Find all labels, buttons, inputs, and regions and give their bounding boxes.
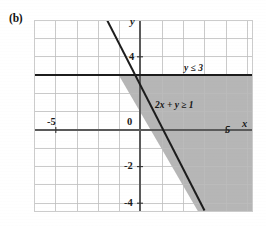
origin-label-0: 0	[127, 116, 132, 127]
y-tick-label-4: 4	[129, 51, 134, 62]
y-tick-label-neg2: -2	[124, 160, 133, 171]
figure-container: (b)	[0, 0, 266, 226]
inequality-label-2x-plus-y-ge-1: 2x + y ≥ 1	[155, 100, 194, 110]
plot-svg	[34, 20, 253, 212]
inequality-label-y-le-3: y ≤ 3	[184, 63, 203, 73]
x-axis-name-label: x	[242, 118, 247, 129]
y-tick-label-neg4: -4	[124, 197, 133, 208]
x-tick-label-5: 5	[225, 124, 230, 135]
y-axis-name-label: y	[130, 20, 135, 27]
coordinate-plane: y x 4 0 -2 -4 -5 5 y ≤ 3 2x + y ≥ 1	[34, 20, 253, 212]
part-label: (b)	[9, 12, 22, 24]
x-tick-label-neg5: -5	[47, 116, 56, 127]
